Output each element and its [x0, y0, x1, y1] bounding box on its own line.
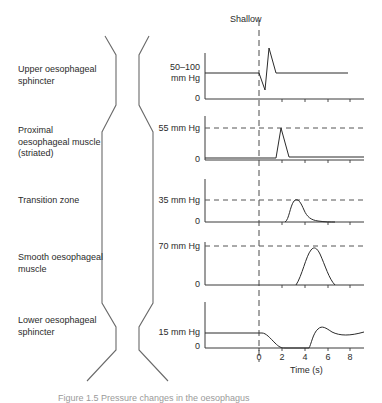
panel-proximal-muscle [205, 116, 364, 163]
figure-caption: Figure 1.5 Pressure changes in the oesop… [58, 393, 250, 403]
x-tick-2: 2 [276, 352, 288, 362]
swallow-marker-label: Shallow [230, 14, 262, 26]
y-zero-upper-sphincter: 0 [150, 93, 200, 104]
panel-upper-sphincter [205, 48, 364, 102]
x-tick-4: 4 [299, 352, 311, 362]
panel-lower-sphincter [205, 302, 364, 351]
y-label-transition-zone: 35 mm Hg [150, 195, 200, 206]
y-label-proximal-muscle: 55 mm Hg [150, 123, 200, 134]
x-tick-6: 6 [322, 352, 334, 362]
y-label-lower-sphincter: 15 mm Hg [150, 327, 200, 338]
y-label-upper-sphincter: 50–100 mm Hg [150, 62, 200, 84]
region-label-upper-sphincter: Upper oesophageal sphincter [18, 64, 97, 87]
y-label-smooth-muscle: 70 mm Hg [150, 241, 200, 252]
x-tick-8: 8 [344, 352, 356, 362]
panel-smooth-muscle [205, 242, 364, 288]
region-label-proximal-muscle: Proximal oesophageal muscle (striated) [18, 125, 101, 160]
y-zero-transition-zone: 0 [150, 216, 200, 227]
region-label-lower-sphincter: Lower oesophageal sphincter [18, 315, 97, 338]
region-label-smooth-muscle: Smooth oesophageal muscle [18, 252, 103, 275]
y-zero-proximal-muscle: 0 [150, 154, 200, 165]
panel-transition-zone [205, 179, 364, 225]
y-zero-lower-sphincter: 0 [150, 341, 200, 352]
y-zero-smooth-muscle: 0 [150, 279, 200, 290]
x-tick-0: 0 [253, 352, 265, 362]
region-label-transition-zone: Transition zone [18, 195, 79, 207]
x-axis-label: Time (s) [290, 365, 323, 377]
